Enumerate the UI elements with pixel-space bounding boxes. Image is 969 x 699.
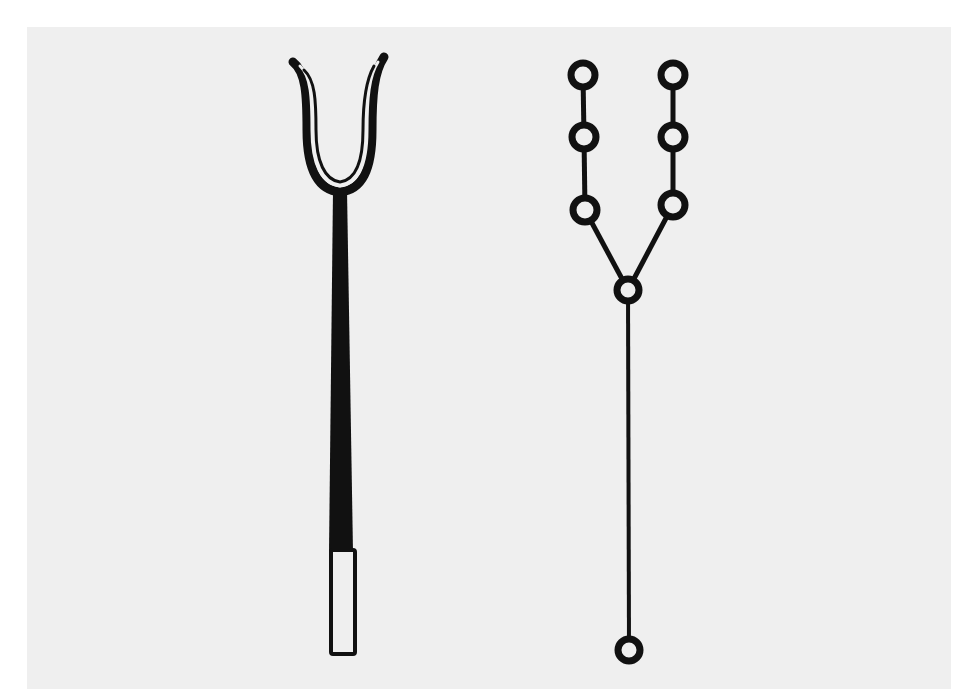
node-circle: [661, 125, 685, 149]
edge: [628, 290, 629, 650]
node-circle: [571, 63, 595, 87]
fork-handle: [331, 550, 355, 654]
node-chain-diagram: [571, 63, 685, 661]
node-circle: [661, 193, 685, 217]
node-circle: [618, 639, 640, 661]
node-circle: [572, 125, 596, 149]
node-circle: [661, 63, 685, 87]
figure-canvas: [0, 0, 969, 699]
fork-shaft: [329, 190, 353, 552]
node-circle: [617, 279, 639, 301]
node-circle: [573, 198, 597, 222]
fork-icon: [293, 57, 384, 192]
